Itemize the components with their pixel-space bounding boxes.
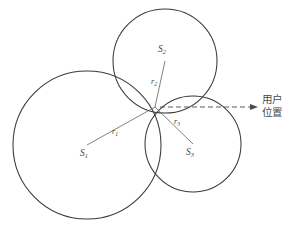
user-position-callout: 用户 位置 — [262, 93, 282, 119]
label-r3-subscript: 3 — [176, 121, 180, 127]
callout-line-1: 用户 — [262, 93, 282, 106]
callout-arrow-head — [250, 104, 258, 110]
diagram-canvas: S1 S2 S3 r1 r2 r3 — [0, 0, 298, 231]
label-r3: r3 — [174, 117, 180, 127]
callout-line-2: 位置 — [262, 106, 282, 119]
label-r1-subscript: 1 — [115, 131, 118, 137]
label-r2-subscript: 2 — [154, 81, 157, 87]
label-s2-subscript: 2 — [163, 48, 167, 55]
label-r2: r2 — [151, 77, 157, 87]
label-s1: S1 — [80, 148, 88, 159]
label-s3-subscript: 3 — [190, 151, 194, 158]
label-s1-subscript: 1 — [85, 152, 88, 159]
trilateration-diagram: S1 S2 S3 r1 r2 r3 用户 位置 — [0, 0, 298, 231]
label-s3: S3 — [186, 147, 194, 158]
label-s2: S2 — [158, 44, 167, 55]
